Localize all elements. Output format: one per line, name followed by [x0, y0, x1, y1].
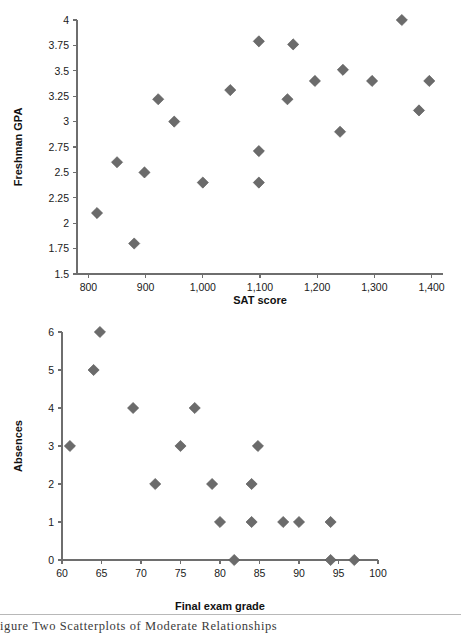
- y-axis-title: Freshman GPA: [12, 108, 24, 187]
- y-tick-label: 3.5: [54, 65, 69, 77]
- data-point-marker: [175, 440, 186, 451]
- data-point-marker: [337, 64, 348, 75]
- caption-divider: [0, 614, 461, 615]
- y-tick-label: 1.75: [49, 242, 70, 254]
- data-point-marker: [150, 478, 161, 489]
- scatterplot-absences-vs-final-exam: 01234566065707580859095100Final exam gra…: [0, 318, 461, 618]
- y-tick-label: 5: [48, 364, 54, 376]
- y-tick-label: 4: [63, 14, 69, 26]
- x-tick-label: 800: [80, 281, 98, 293]
- x-tick-label: 1,200: [304, 281, 330, 293]
- data-point-marker: [246, 478, 257, 489]
- y-tick-label: 2: [63, 217, 69, 229]
- x-tick-label: 85: [254, 567, 266, 579]
- x-tick-label: 1,300: [361, 281, 387, 293]
- data-point-marker: [229, 554, 240, 565]
- data-point-marker: [396, 14, 407, 25]
- data-point-marker: [349, 554, 360, 565]
- data-point-marker: [214, 516, 225, 527]
- data-point-marker: [246, 516, 257, 527]
- y-tick-label: 2: [48, 478, 54, 490]
- data-point-marker: [128, 402, 139, 413]
- y-tick-label: 3.25: [49, 90, 70, 102]
- y-tick-label: 6: [48, 326, 54, 338]
- data-point-marker: [225, 85, 236, 96]
- data-point-marker: [309, 75, 320, 86]
- data-point-marker: [424, 75, 435, 86]
- y-tick-label: 1: [48, 516, 54, 528]
- data-point-marker: [189, 402, 200, 413]
- data-point-marker: [253, 36, 264, 47]
- y-tick-label: 2.75: [49, 141, 70, 153]
- data-point-marker: [153, 94, 164, 105]
- data-point-marker: [253, 177, 264, 188]
- x-tick-label: 1,400: [418, 281, 444, 293]
- x-tick-label: 80: [214, 567, 226, 579]
- y-tick-label: 2.25: [49, 192, 70, 204]
- y-tick-label: 2.5: [54, 166, 69, 178]
- x-tick-label: 70: [135, 567, 147, 579]
- y-tick-label: 1.5: [54, 268, 69, 280]
- data-point-marker: [288, 39, 299, 50]
- x-axis-title: SAT score: [233, 294, 287, 306]
- y-tick-label: 3: [63, 115, 69, 127]
- x-tick-label: 65: [96, 567, 108, 579]
- gpa-plot-svg: 1.51.7522.252.52.7533.253.53.7548009001,…: [0, 0, 461, 310]
- data-point-marker: [139, 167, 150, 178]
- y-tick-label: 0: [48, 554, 54, 566]
- data-point-marker: [111, 157, 122, 168]
- y-axis-title: Absences: [12, 420, 24, 472]
- data-point-marker: [129, 238, 140, 249]
- x-tick-label: 900: [137, 281, 155, 293]
- x-tick-label: 1,100: [247, 281, 273, 293]
- data-point-marker: [197, 177, 208, 188]
- data-point-marker: [169, 116, 180, 127]
- data-point-marker: [278, 516, 289, 527]
- x-tick-label: 60: [56, 567, 68, 579]
- data-point-marker: [94, 326, 105, 337]
- x-tick-label: 75: [175, 567, 187, 579]
- data-point-marker: [88, 364, 99, 375]
- figure-two-scatterplots: 1.51.7522.252.52.7533.253.53.7548009001,…: [0, 0, 461, 633]
- data-point-marker: [207, 478, 218, 489]
- y-tick-label: 3.75: [49, 39, 70, 51]
- data-point-marker: [366, 75, 377, 86]
- x-axis-title: Final exam grade: [175, 600, 265, 612]
- y-tick-label: 3: [48, 440, 54, 452]
- data-point-marker: [325, 516, 336, 527]
- x-tick-label: 100: [369, 567, 387, 579]
- data-point-marker: [91, 207, 102, 218]
- data-point-marker: [413, 105, 424, 116]
- x-tick-label: 1,000: [190, 281, 216, 293]
- data-point-marker: [253, 145, 264, 156]
- data-point-marker: [334, 126, 345, 137]
- x-tick-label: 95: [333, 567, 345, 579]
- data-point-marker: [325, 554, 336, 565]
- y-tick-label: 4: [48, 402, 54, 414]
- data-point-marker: [282, 94, 293, 105]
- figure-caption: igure Two Scatterplots of Moderate Relat…: [0, 619, 461, 633]
- data-point-marker: [252, 440, 263, 451]
- data-point-marker: [64, 440, 75, 451]
- scatterplot-gpa-vs-sat: 1.51.7522.252.52.7533.253.53.7548009001,…: [0, 0, 461, 310]
- x-tick-label: 90: [293, 567, 305, 579]
- data-point-marker: [293, 516, 304, 527]
- absences-plot-svg: 01234566065707580859095100Final exam gra…: [0, 318, 461, 618]
